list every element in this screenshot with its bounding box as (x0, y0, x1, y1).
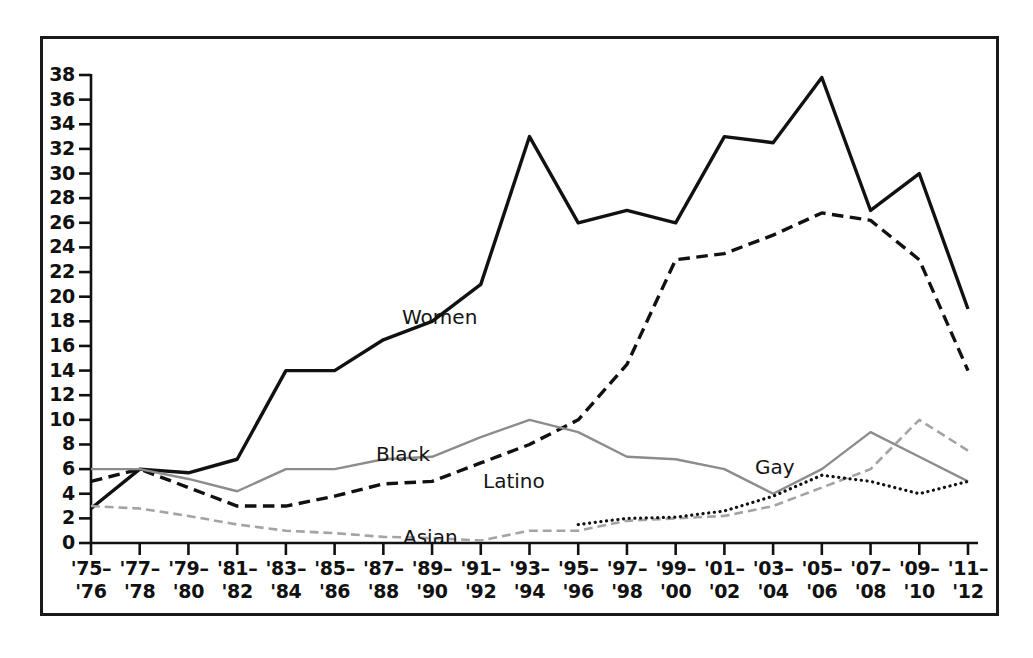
y-tick-label: 30 (41, 162, 75, 184)
y-tick-label: 0 (41, 531, 75, 553)
y-tick-label: 6 (41, 457, 75, 479)
y-tick-label: 8 (41, 432, 75, 454)
y-tick-label: 38 (41, 63, 75, 85)
y-tick-label: 2 (41, 506, 75, 528)
y-tick-label: 26 (41, 211, 75, 233)
y-tick-label: 10 (41, 408, 75, 430)
y-tick-label: 28 (41, 186, 75, 208)
y-tick-label: 36 (41, 88, 75, 110)
y-tick-label: 4 (41, 482, 75, 504)
chart-border (40, 36, 999, 616)
y-tick-label: 16 (41, 334, 75, 356)
y-tick-label: 12 (41, 383, 75, 405)
y-tick-label: 20 (41, 285, 75, 307)
series-label-women: Women (402, 305, 477, 329)
series-label-asian: Asian (403, 525, 458, 549)
y-tick-label: 34 (41, 112, 75, 134)
x-tick-label: '11–'12 (937, 557, 999, 603)
y-tick-label: 32 (41, 137, 75, 159)
series-label-gay: Gay (755, 455, 795, 479)
y-tick-label: 18 (41, 309, 75, 331)
series-label-black: Black (376, 442, 430, 466)
series-label-latino: Latino (483, 469, 545, 493)
y-tick-label: 22 (41, 260, 75, 282)
y-tick-label: 14 (41, 359, 75, 381)
chart-figure: 02468101214161820222426283032343638'75–'… (0, 0, 1033, 658)
y-tick-label: 24 (41, 235, 75, 257)
